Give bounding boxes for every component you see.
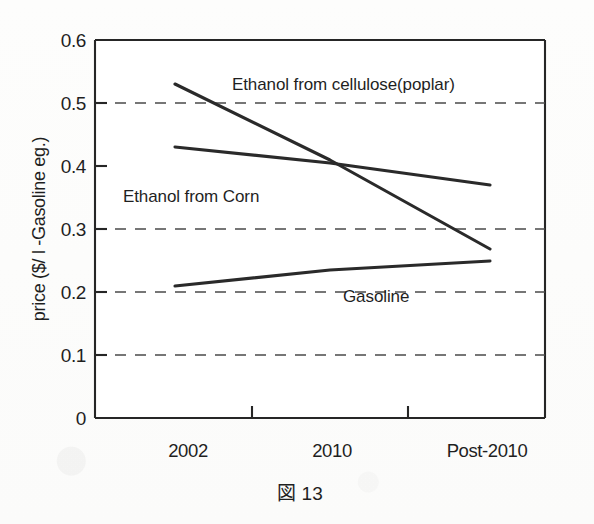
y-axis-title: price ($/ l -Gasoline eg.) <box>29 137 49 321</box>
y-tick-label-0.2: 0.2 <box>61 282 86 303</box>
y-tick-label-0.1: 0.1 <box>61 345 86 366</box>
series-label-ethanol-from-corn: Ethanol from Corn <box>123 187 259 206</box>
x-tick-label-2010: 2010 <box>312 440 352 461</box>
x-axis-tick-labels: 2002 2010 Post-2010 <box>168 440 527 461</box>
x-tick-label-post-2010: Post-2010 <box>447 440 528 461</box>
series-label-ethanol-from-cellulose: Ethanol from cellulose(poplar) <box>232 75 455 94</box>
figure-13-container: 0.6 0.5 0.4 0.3 0.2 0.1 0 price ($/ l -G… <box>0 0 594 524</box>
y-axis-tick-labels: 0.6 0.5 0.4 0.3 0.2 0.1 0 <box>61 30 87 429</box>
series-label-gasoline: Gasoline <box>343 287 409 306</box>
y-tick-label-0.3: 0.3 <box>61 219 86 240</box>
y-tick-label-0.4: 0.4 <box>61 156 87 177</box>
y-tick-label-0.5: 0.5 <box>61 93 86 114</box>
figure-caption: 図 13 <box>277 483 322 504</box>
y-tick-label-0: 0 <box>76 408 86 429</box>
x-tick-label-2002: 2002 <box>168 440 208 461</box>
y-tick-label-0.6: 0.6 <box>61 30 86 51</box>
line-chart: 0.6 0.5 0.4 0.3 0.2 0.1 0 price ($/ l -G… <box>0 0 594 524</box>
